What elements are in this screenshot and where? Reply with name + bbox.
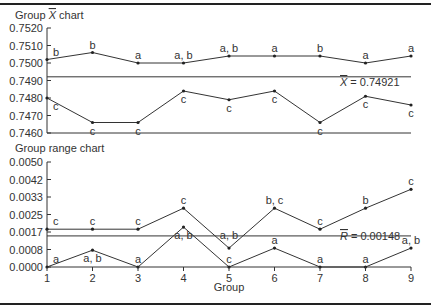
data-point — [318, 228, 321, 231]
y-tick-label: 0.0000 — [9, 261, 43, 273]
point-label: c — [53, 215, 59, 227]
point-label: c — [272, 93, 278, 105]
point-label: b — [53, 46, 59, 58]
y-tick-label: 0.7520 — [9, 22, 43, 34]
data-point — [91, 51, 94, 54]
point-label: a, b — [83, 252, 101, 264]
point-label: b — [317, 42, 323, 54]
point-label: b — [362, 194, 368, 206]
y-tick-label: 0.7470 — [9, 110, 43, 122]
control-charts-figure: Group X chart 0.75200.75100.75000.74900.… — [0, 0, 431, 308]
data-point — [318, 54, 321, 57]
data-point — [364, 61, 367, 64]
data-point — [45, 96, 48, 99]
x-tick-label: 4 — [180, 272, 186, 284]
point-label: c — [135, 215, 141, 227]
point-label: c — [53, 100, 59, 112]
point-label: c — [317, 215, 323, 227]
data-point — [409, 247, 412, 250]
y-tick-label: 0.0042 — [9, 174, 43, 186]
x-tick-label: 1 — [44, 272, 50, 284]
x-tick-label: 9 — [408, 272, 414, 284]
data-point — [273, 207, 276, 210]
point-label: a — [135, 49, 142, 61]
data-point — [409, 54, 412, 57]
point-label: a — [362, 49, 369, 61]
point-label: a, b — [220, 229, 238, 241]
point-label: a — [271, 234, 278, 246]
x-tick-label: 2 — [89, 272, 95, 284]
y-tick-label: 0.7500 — [9, 57, 43, 69]
data-point — [91, 228, 94, 231]
point-label: a — [135, 253, 142, 265]
data-point — [136, 228, 139, 231]
data-point — [136, 61, 139, 64]
point-label: c — [226, 102, 232, 114]
point-label: c — [181, 93, 187, 105]
x-tick-label: 8 — [362, 272, 368, 284]
point-label: c — [226, 253, 232, 265]
y-tick-label: 0.0025 — [9, 209, 43, 221]
point-label: a, b — [220, 42, 238, 54]
data-point — [182, 61, 185, 64]
data-point — [227, 247, 230, 250]
x-axis-label: Group — [214, 281, 245, 293]
xbar-chart-title: Group X chart — [15, 9, 84, 21]
point-label: c — [90, 125, 96, 137]
data-point — [227, 54, 230, 57]
point-label: c — [181, 194, 187, 206]
point-label: c — [317, 125, 323, 137]
point-label: c — [135, 125, 141, 137]
point-label: a — [271, 42, 278, 54]
y-tick-label: 0.7510 — [9, 40, 43, 52]
data-point — [182, 207, 185, 210]
range-chart-title: Group range chart — [15, 142, 104, 154]
x-tick-label: 3 — [135, 272, 141, 284]
point-label: a — [362, 253, 369, 265]
point-label: b — [89, 39, 95, 51]
point-label: a — [53, 253, 60, 265]
point-label: c — [90, 215, 96, 227]
data-point — [45, 58, 48, 61]
x-tick-label: 7 — [317, 272, 323, 284]
y-tick-label: 0.0008 — [9, 244, 43, 256]
point-label: a, b — [174, 229, 192, 241]
range-chart: 0.00500.00420.00330.00250.00170.00080.00… — [9, 156, 420, 284]
data-point — [273, 54, 276, 57]
point-label: a, b — [174, 49, 192, 61]
point-label: a — [408, 42, 415, 54]
point-label: a, b — [402, 234, 420, 246]
x-tick-label: 6 — [271, 272, 277, 284]
data-point — [273, 247, 276, 250]
y-tick-label: 0.0050 — [9, 156, 43, 168]
point-label: b, c — [266, 194, 284, 206]
y-tick-label: 0.7490 — [9, 75, 43, 87]
y-tick-label: 0.0033 — [9, 191, 43, 203]
data-point — [364, 207, 367, 210]
series-line-upper — [47, 53, 411, 64]
y-tick-label: 0.7480 — [9, 92, 43, 104]
point-label: c — [363, 98, 369, 110]
data-point — [45, 228, 48, 231]
xbar-center-line-label: X= 0.74921 — [339, 76, 400, 88]
point-label: a — [317, 253, 324, 265]
y-tick-label: 0.0017 — [9, 226, 43, 238]
data-point — [409, 188, 412, 191]
point-label: c — [408, 175, 414, 187]
point-label: c — [408, 107, 414, 119]
y-tick-label: 0.7460 — [9, 127, 43, 139]
